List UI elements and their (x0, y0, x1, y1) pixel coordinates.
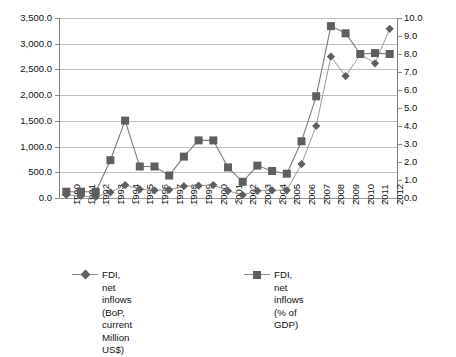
legend-label-line1: FDI, net inflows (% of GDP) (274, 269, 304, 330)
data-point-square (356, 50, 364, 58)
data-point-diamond (327, 53, 335, 61)
series-million-usd (62, 25, 394, 201)
data-point-square (253, 162, 261, 170)
legend-label-line1: FDI, net inflows (102, 269, 132, 305)
legend-label-line2: (BoP, current Million US$) (102, 307, 132, 356)
data-point-square (151, 163, 159, 171)
data-point-square (121, 117, 129, 125)
data-point-diamond (195, 182, 203, 190)
data-point-diamond (209, 181, 217, 189)
data-point-square (312, 92, 320, 100)
data-point-square (209, 136, 217, 144)
legend-line-square (244, 269, 270, 280)
data-point-diamond (106, 188, 114, 196)
data-point-square (165, 172, 173, 180)
data-point-square (298, 137, 306, 145)
data-point-diamond (386, 25, 394, 33)
data-point-square (239, 178, 247, 186)
series-line (66, 29, 389, 197)
data-point-diamond (371, 59, 379, 67)
legend-item-bop-million-usd: FDI, net inflows (BoP, current Million U… (72, 269, 132, 357)
data-point-square (327, 22, 335, 30)
data-point-square (342, 29, 350, 37)
data-point-square (62, 188, 70, 196)
data-point-diamond (165, 186, 173, 194)
data-point-square (195, 136, 203, 144)
data-point-diamond (297, 160, 305, 168)
data-point-square (386, 50, 394, 58)
data-point-square (224, 163, 232, 171)
data-point-diamond (136, 185, 144, 193)
legend-line-diamond (72, 269, 98, 280)
legend-label-bop-million-usd: FDI, net inflows (BoP, current Million U… (98, 269, 132, 357)
data-point-diamond (121, 181, 129, 189)
legend-label-percent-of-gdp: FDI, net inflows (% of GDP) (270, 269, 304, 332)
data-point-diamond (312, 122, 320, 130)
diamond-marker-icon (80, 270, 90, 280)
data-point-square (106, 156, 114, 164)
series-percent-of-gdp (62, 22, 393, 196)
data-point-square (77, 188, 85, 196)
data-point-diamond (342, 72, 350, 80)
data-point-square (136, 163, 144, 171)
data-point-diamond (253, 187, 261, 195)
data-point-square (371, 49, 379, 57)
data-point-square (283, 170, 291, 178)
data-point-diamond (239, 191, 247, 199)
square-marker-icon (253, 271, 261, 279)
data-point-diamond (180, 182, 188, 190)
data-point-square (268, 167, 276, 175)
legend-item-percent-of-gdp: FDI, net inflows (% of GDP) (244, 269, 304, 332)
data-point-diamond (268, 186, 276, 194)
data-point-diamond (150, 186, 158, 194)
data-point-diamond (283, 186, 291, 194)
data-point-square (92, 188, 100, 196)
data-point-square (180, 153, 188, 161)
data-point-diamond (224, 187, 232, 195)
